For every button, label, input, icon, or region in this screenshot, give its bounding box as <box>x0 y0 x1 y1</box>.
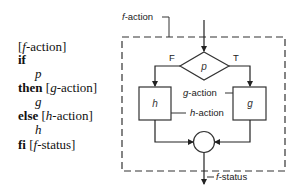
h-box-label: h <box>152 98 158 109</box>
h-action-label: h-action <box>190 107 224 118</box>
g-action-label: g-action <box>183 87 217 98</box>
exit-label: f-status <box>216 171 247 182</box>
flowchart: f-action p F T h g g-action h-action f-s… <box>0 0 301 193</box>
g-box-label: g <box>247 98 253 109</box>
g-merge-arrow <box>215 120 250 142</box>
false-branch-label: F <box>169 52 175 63</box>
entry-leader-line <box>162 17 169 37</box>
false-branch-arrow <box>155 66 180 86</box>
merge-junction <box>194 132 215 153</box>
h-merge-arrow <box>155 120 193 142</box>
true-branch-label: T <box>233 52 239 63</box>
decision-label: p <box>200 61 207 72</box>
entry-label: f-action <box>122 11 153 22</box>
true-branch-arrow <box>229 66 250 86</box>
